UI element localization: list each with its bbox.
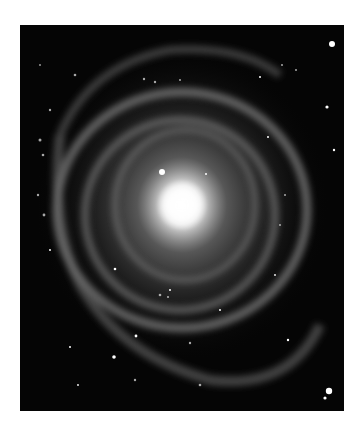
galaxy-photo [20, 25, 344, 411]
galaxy-core [156, 179, 208, 231]
galaxy-illustration [20, 25, 344, 411]
